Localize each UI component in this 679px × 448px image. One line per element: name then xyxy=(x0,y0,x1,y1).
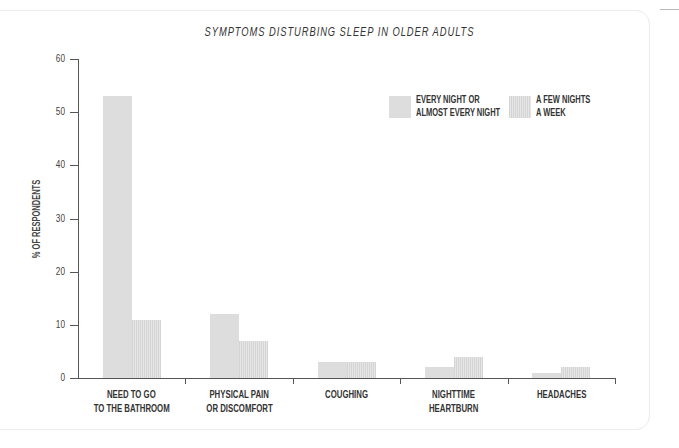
legend-swatch-every-night xyxy=(389,96,411,118)
chart-title: SYMPTOMS DISTURBING SLEEP IN OLDER ADULT… xyxy=(75,25,605,39)
legend-label-few-nights-1: A FEW NIGHTS xyxy=(536,94,590,105)
x-tick-mark xyxy=(400,378,401,384)
legend-label-every-night-1: EVERY NIGHT OR xyxy=(416,94,480,105)
y-axis-line xyxy=(78,59,79,378)
bar xyxy=(132,320,161,378)
bar xyxy=(210,314,239,378)
y-tick-mark xyxy=(70,378,78,379)
x-tick-label: COUGHING xyxy=(292,388,402,402)
bar xyxy=(347,362,376,378)
bar xyxy=(532,373,561,378)
bar xyxy=(425,367,454,378)
y-tick-label: 30 xyxy=(43,212,66,224)
y-axis-label: % OF RESPONDENTS xyxy=(31,180,42,258)
y-tick-mark xyxy=(70,219,78,220)
y-tick-label: 0 xyxy=(43,371,66,383)
y-tick-mark xyxy=(70,59,78,60)
y-tick-label: 60 xyxy=(43,52,66,64)
x-tick-label: NIGHTTIMEHEARTBURN xyxy=(399,388,509,416)
x-tick-mark xyxy=(508,378,509,384)
bar xyxy=(103,96,132,378)
y-tick-mark xyxy=(70,272,78,273)
legend-label-few-nights-2: A WEEK xyxy=(536,107,566,118)
y-tick-mark xyxy=(70,165,78,166)
bar xyxy=(239,341,268,378)
divider xyxy=(660,9,679,10)
y-tick-label: 40 xyxy=(43,158,66,170)
x-axis-line xyxy=(78,378,615,379)
x-tick-mark xyxy=(185,378,186,384)
x-tick-mark xyxy=(293,378,294,384)
legend-label-every-night-2: ALMOST EVERY NIGHT xyxy=(416,107,500,118)
bar xyxy=(318,362,347,378)
x-tick-label: PHYSICAL PAINOR DISCOMFORT xyxy=(184,388,294,416)
bar xyxy=(561,367,590,378)
y-tick-label: 20 xyxy=(43,265,66,277)
y-tick-label: 10 xyxy=(43,318,66,330)
y-tick-mark xyxy=(70,112,78,113)
x-tick-label: NEED TO GOTO THE BATHROOM xyxy=(77,388,187,416)
x-tick-mark xyxy=(615,378,616,384)
y-tick-label: 50 xyxy=(43,105,66,117)
bar xyxy=(454,357,483,378)
x-tick-label: HEADACHES xyxy=(506,388,616,402)
y-tick-mark xyxy=(70,325,78,326)
legend-swatch-few-nights xyxy=(509,96,531,118)
